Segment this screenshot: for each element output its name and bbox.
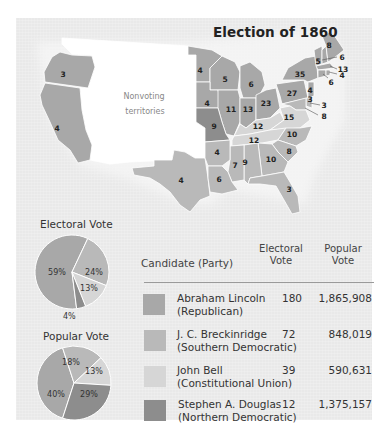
row-breckinridge-electoral: 72 (282, 328, 295, 341)
label-pa: 27 (287, 89, 297, 98)
row-breckinridge-popular: 848,019 (316, 328, 372, 341)
svg-text:59%: 59% (48, 268, 66, 277)
election-panel: 3 4 4 4 5 6 4 11 13 23 27 35 8 5 4 3 9 1… (16, 18, 372, 420)
label-de: 3 (307, 95, 312, 104)
label-mi: 6 (248, 80, 253, 89)
label-ca: 4 (54, 124, 59, 133)
popular-vote-pie: 40% 18% 13% 29% (36, 344, 116, 426)
label-nc: 10 (287, 130, 297, 139)
label-ms: 7 (232, 161, 237, 170)
label-sc: 8 (286, 147, 291, 156)
callout-md: 8 (321, 112, 326, 121)
map-title: Election of 1860 (213, 24, 338, 40)
state-rhode-island (326, 70, 330, 76)
label-in: 13 (243, 105, 253, 114)
label-il: 11 (226, 105, 236, 114)
row-lincoln-popular: 1,865,908 (316, 292, 372, 305)
swatch-breckinridge (144, 330, 166, 351)
row-breckinridge-name: J. C. Breckinridge(Southern Democratic) (177, 328, 297, 354)
row-douglas-electoral: 12 (282, 398, 295, 411)
label-va: 15 (284, 113, 294, 122)
label-nj: 4 (307, 86, 312, 95)
row-douglas-name: Stephen A. Douglas(Northern Democratic) (178, 398, 297, 424)
svg-text:24%: 24% (85, 268, 103, 277)
header-electoral: Electoral Vote (256, 243, 306, 267)
callout-ri: 4 (339, 71, 344, 80)
svg-text:territories: territories (125, 107, 164, 116)
election-map: 3 4 4 4 5 6 4 11 13 23 27 35 8 5 4 3 9 1… (16, 18, 372, 218)
label-la: 6 (216, 175, 221, 184)
swatch-bell (144, 366, 166, 387)
svg-text:40%: 40% (47, 390, 65, 399)
swatch-lincoln (143, 294, 165, 315)
label-ia: 4 (204, 99, 209, 108)
electoral-vote-pie: 59% 24% 13% (34, 232, 114, 314)
label-ky: 12 (253, 122, 263, 131)
row-bell-popular: 590,631 (316, 364, 372, 377)
state-oregon (44, 52, 95, 88)
svg-text:13%: 13% (80, 284, 98, 293)
label-mo: 9 (211, 122, 216, 131)
header-candidate: Candidate (Party) (141, 257, 233, 269)
row-lincoln-electoral: 180 (282, 292, 302, 305)
label-or: 3 (60, 70, 65, 79)
svg-text:29%: 29% (80, 390, 98, 399)
label-oh: 23 (261, 99, 271, 108)
label-al: 9 (242, 158, 247, 167)
svg-text:Nonvoting: Nonvoting (123, 92, 164, 101)
svg-text:13%: 13% (85, 367, 103, 376)
label-me: 8 (326, 41, 331, 50)
row-bell-name: John Bell(Constitutional Union) (177, 364, 292, 390)
svg-text:18%: 18% (62, 358, 80, 367)
popular-pie-title: Popular Vote (43, 330, 109, 342)
row-bell-electoral: 39 (282, 364, 295, 377)
label-ga: 10 (266, 155, 276, 164)
label-ar: 4 (214, 148, 219, 157)
callout-nh: 6 (339, 53, 344, 62)
label-mn: 4 (197, 66, 202, 75)
callout-ct: 6 (328, 78, 333, 87)
label-tx: 4 (178, 176, 183, 185)
row-douglas-popular: 1,375,157 (316, 398, 372, 411)
electoral-pie-title: Electoral Vote (40, 218, 113, 230)
electoral-douglas-label: 4% (63, 312, 76, 321)
label-tn: 12 (249, 136, 259, 145)
label-vt: 5 (315, 57, 320, 66)
callout-de: 3 (321, 101, 326, 110)
label-fl: 3 (286, 185, 291, 194)
swatch-douglas (144, 400, 166, 421)
header-popular: Popular Vote (316, 243, 370, 267)
label-wi: 5 (222, 75, 227, 84)
header-divider (144, 282, 374, 283)
label-ny: 35 (295, 70, 305, 79)
row-lincoln-name: Abraham Lincoln(Republican) (177, 292, 265, 318)
